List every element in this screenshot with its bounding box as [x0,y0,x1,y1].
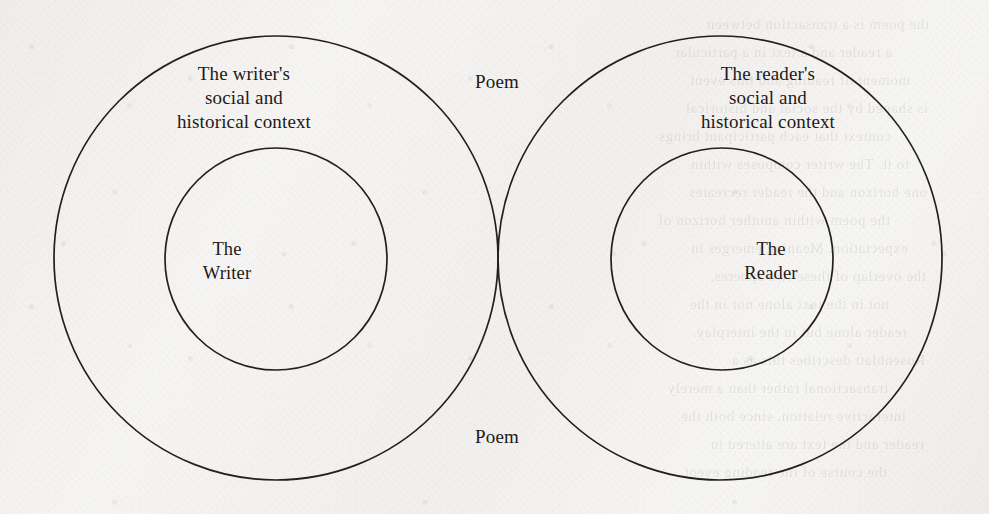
circle-reader [611,148,833,370]
label-writer: The Writer [203,237,251,285]
label-poem-bottom: Poem [475,425,519,449]
circle-writer [165,148,387,370]
label-poem-top: Poem [475,70,519,94]
label-reader-context: The reader's social and historical conte… [701,62,835,134]
label-writer-context: The writer's social and historical conte… [177,62,311,134]
scanned-page: the poem is a transaction betweena reade… [0,0,989,514]
label-reader: The Reader [744,237,797,285]
